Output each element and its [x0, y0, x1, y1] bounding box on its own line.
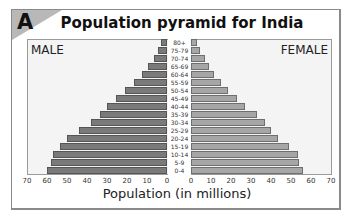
x-tick-male: 70 — [19, 177, 35, 185]
age-group-label: 45-49 — [168, 95, 191, 103]
female-bar — [191, 111, 257, 118]
female-bar — [191, 103, 245, 110]
male-bar — [148, 63, 167, 70]
female-bar — [191, 119, 265, 126]
male-bar — [158, 47, 167, 54]
x-tick-male: 20 — [119, 177, 135, 185]
female-bar — [191, 127, 271, 134]
x-tick-male: 10 — [139, 177, 155, 185]
age-group-label: 80+ — [168, 39, 191, 47]
age-group-label: 35-39 — [168, 111, 191, 119]
male-bar — [67, 135, 167, 142]
age-group-label: 75-79 — [168, 47, 191, 55]
female-bar — [191, 55, 205, 62]
male-bar — [161, 39, 167, 46]
female-bar — [191, 159, 299, 166]
female-bar — [191, 95, 237, 102]
male-bar — [79, 127, 167, 134]
male-bar — [134, 79, 167, 86]
age-group-label: 65-69 — [168, 63, 191, 71]
female-bar — [191, 167, 303, 174]
female-bar — [191, 63, 209, 70]
male-bar — [100, 111, 167, 118]
age-group-label: 5-9 — [168, 159, 191, 167]
female-bar — [191, 151, 298, 158]
x-axis-label: Population (in millions) — [12, 186, 341, 201]
x-tick-female: 30 — [243, 177, 259, 185]
x-tick-male: 0 — [159, 177, 175, 185]
age-group-label: 60-64 — [168, 71, 191, 79]
male-bar — [125, 87, 167, 94]
age-group-label: 25-29 — [168, 127, 191, 135]
female-bar — [191, 47, 200, 54]
x-tick-female: 20 — [223, 177, 239, 185]
female-bar — [191, 71, 214, 78]
x-tick-female: 0 — [183, 177, 199, 185]
x-tick-male: 60 — [39, 177, 55, 185]
x-tick-female: 70 — [323, 177, 339, 185]
x-tick-female: 40 — [263, 177, 279, 185]
x-tick-male: 30 — [99, 177, 115, 185]
male-bar — [154, 55, 167, 62]
x-tick-female: 60 — [303, 177, 319, 185]
chart-title: Population pyramid for India — [12, 14, 341, 32]
age-group-label: 0-4 — [168, 167, 191, 175]
x-tick-male: 40 — [79, 177, 95, 185]
age-group-label: 70-74 — [168, 55, 191, 63]
male-bar — [116, 95, 167, 102]
male-bar — [53, 151, 167, 158]
female-bar — [191, 135, 278, 142]
x-tick-female: 50 — [283, 177, 299, 185]
age-group-label: 15-19 — [168, 143, 191, 151]
male-bar — [107, 103, 167, 110]
male-bar — [142, 71, 167, 78]
male-label: MALE — [31, 43, 64, 57]
female-bar — [191, 143, 289, 150]
x-tick-female: 10 — [203, 177, 219, 185]
age-group-label: 50-54 — [168, 87, 191, 95]
age-group-label: 40-44 — [168, 103, 191, 111]
female-bar — [191, 87, 228, 94]
figure-frame: A Population pyramid for India MALE FEMA… — [11, 9, 341, 210]
age-group-label: 55-59 — [168, 79, 191, 87]
age-group-label: 20-24 — [168, 135, 191, 143]
male-bar — [47, 167, 167, 174]
male-bar — [51, 159, 167, 166]
female-bar — [191, 79, 221, 86]
male-bar — [60, 143, 167, 150]
age-group-label: 30-34 — [168, 119, 191, 127]
age-group-label: 10-14 — [168, 151, 191, 159]
x-tick-male: 50 — [59, 177, 75, 185]
female-label: FEMALE — [281, 43, 328, 57]
female-bar — [191, 39, 197, 46]
male-bar — [91, 119, 167, 126]
